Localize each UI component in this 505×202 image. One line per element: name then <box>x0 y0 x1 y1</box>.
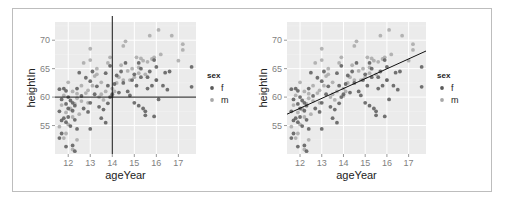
data-point-f <box>69 124 73 128</box>
data-point-f <box>309 71 313 75</box>
data-point-m <box>320 47 324 51</box>
legend: sexfm <box>437 71 459 105</box>
data-point-f <box>64 120 68 124</box>
data-point-m <box>88 58 92 62</box>
data-point-f <box>152 58 156 62</box>
data-point-f <box>333 108 337 112</box>
data-point-m <box>326 67 330 71</box>
legend-key-m <box>210 98 214 102</box>
data-point-m <box>333 98 337 102</box>
data-point-m <box>170 34 174 38</box>
x-tick-label: 14 <box>338 158 348 168</box>
data-point-m <box>64 132 68 136</box>
data-point-f <box>88 127 92 131</box>
y-tick-label: 70 <box>272 35 282 45</box>
legend-label-m: m <box>451 95 459 105</box>
data-point-f <box>95 84 99 88</box>
data-point-f <box>139 75 143 79</box>
y-tick-label: 60 <box>272 92 282 102</box>
data-point-f <box>344 82 348 86</box>
data-point-m <box>159 53 163 57</box>
data-point-f <box>348 91 352 95</box>
data-point-f <box>154 78 158 82</box>
data-point-f <box>300 124 304 128</box>
data-point-f <box>143 113 147 117</box>
data-point-m <box>411 42 415 46</box>
data-point-f <box>313 107 317 111</box>
data-point-f <box>163 71 167 75</box>
data-point-m <box>181 42 185 46</box>
data-point-f <box>302 144 306 148</box>
data-point-f <box>135 84 139 88</box>
data-point-m <box>326 72 330 76</box>
data-point-f <box>106 84 110 88</box>
data-point-f <box>99 116 103 120</box>
data-point-f <box>335 71 339 75</box>
data-point-m <box>318 88 322 92</box>
data-point-f <box>385 78 389 82</box>
data-point-f <box>58 87 62 91</box>
data-point-f <box>190 65 194 69</box>
data-point-m <box>95 72 99 76</box>
data-point-m <box>376 60 380 64</box>
data-point-m <box>296 111 300 115</box>
data-point-m <box>64 111 68 115</box>
data-point-f <box>357 90 361 94</box>
data-point-m <box>124 39 128 43</box>
legend-label-m: m <box>221 95 229 105</box>
data-point-f <box>84 76 88 80</box>
data-point-f <box>132 101 136 105</box>
data-point-m <box>146 60 150 64</box>
data-point-f <box>302 109 306 113</box>
data-point-f <box>376 75 380 79</box>
data-point-f <box>394 71 398 75</box>
data-point-m <box>339 55 343 59</box>
data-point-f <box>119 70 123 74</box>
legend-key-f <box>440 86 444 90</box>
legend-key-f <box>210 86 214 90</box>
x-axis-title: ageYear <box>336 169 377 181</box>
data-point-f <box>381 84 385 88</box>
data-point-f <box>104 71 108 75</box>
data-point-m <box>294 136 298 140</box>
data-point-m <box>361 67 365 71</box>
data-point-f <box>337 84 341 88</box>
x-tick-label: 12 <box>295 158 305 168</box>
data-point-m <box>400 34 404 38</box>
data-point-m <box>296 132 300 136</box>
data-point-f <box>161 84 165 88</box>
data-point-f <box>320 101 324 105</box>
legend-title: sex <box>437 71 451 80</box>
legend-title: sex <box>207 71 221 80</box>
data-point-m <box>75 92 79 96</box>
data-point-m <box>313 61 317 65</box>
data-point-f <box>355 61 359 65</box>
data-point-f <box>363 72 367 76</box>
data-point-f <box>157 97 161 101</box>
data-point-m <box>121 44 125 48</box>
data-point-m <box>60 103 64 107</box>
data-point-f <box>292 132 296 136</box>
data-point-f <box>60 97 64 101</box>
data-point-f <box>148 70 152 74</box>
panel-right: 12131415161755606570ageYearheightInsexfm <box>257 22 459 181</box>
data-point-f <box>113 82 117 86</box>
data-point-f <box>75 127 79 131</box>
data-point-m <box>91 84 95 88</box>
legend: sexfm <box>207 71 229 105</box>
data-point-f <box>168 70 172 74</box>
data-point-f <box>60 132 64 136</box>
data-point-f <box>296 120 300 124</box>
data-point-m <box>357 69 361 73</box>
data-point-f <box>190 85 194 89</box>
x-tick-label: 15 <box>360 158 370 168</box>
data-point-f <box>298 95 302 99</box>
data-point-f <box>335 121 339 125</box>
data-point-f <box>137 61 141 65</box>
scatter-figure: 12131415161755606570ageYearheightInsexfm… <box>0 0 505 202</box>
data-point-m <box>80 84 84 88</box>
data-point-f <box>165 88 169 92</box>
data-point-f <box>121 81 125 85</box>
data-point-m <box>119 63 123 67</box>
x-tick-label: 13 <box>85 158 95 168</box>
